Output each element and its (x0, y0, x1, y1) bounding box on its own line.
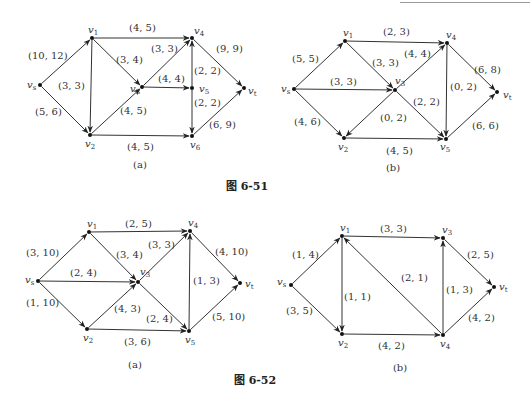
node-label-v2: v2 (85, 138, 95, 151)
edge-label-v5-v4: (2, 2) (194, 65, 221, 76)
edge-label-vs-v2: (1, 10) (26, 297, 59, 308)
edge-v5-vt (447, 94, 494, 138)
node-vs (38, 83, 42, 87)
figure-caption: 图 6-52 (234, 374, 276, 387)
node-vs (292, 87, 296, 91)
node-v2 (88, 133, 92, 137)
edge-label-v2-v5: (4, 5) (386, 145, 413, 156)
edge-label-v2-v5: (3, 6) (124, 336, 151, 347)
edge-label-v1-v3: (3, 4) (116, 249, 143, 260)
edge-vs-v1 (41, 40, 89, 84)
node-v1 (340, 234, 344, 238)
node-label-v5: v5 (185, 334, 195, 347)
edge-label-vs-v2: (5, 6) (35, 106, 62, 117)
edge-label-vs-v1: (1, 4) (292, 249, 319, 260)
edge-label-v3-v4: (3, 3) (148, 239, 175, 250)
node-label-v1: v1 (343, 27, 353, 40)
panel-a: (10, 12)(5, 6)(3, 3)(4, 5)(3, 4)(4, 5)(4… (27, 22, 257, 170)
edge-label-vs-v3: (2, 4) (70, 267, 97, 278)
edge-label-v5-vt: (6, 6) (472, 120, 499, 131)
node-label-vt: vt (503, 89, 512, 102)
node-vs (289, 283, 293, 287)
edge-label-v1-v2: (1, 1) (344, 291, 371, 302)
edge-v1-v3 (344, 236, 440, 238)
edge-label-v4-v1: (2, 1) (401, 272, 428, 283)
node-v3 (393, 88, 397, 92)
node-label-vt: vt (245, 278, 254, 291)
node-label-v4: v4 (440, 338, 451, 351)
edge-v1-v4 (347, 41, 444, 43)
figure-6-51: (10, 12)(5, 6)(3, 3)(4, 5)(3, 4)(4, 5)(4… (27, 22, 512, 193)
node-v2 (342, 136, 346, 140)
figure-6-52: (3, 10)(2, 4)(1, 10)(2, 5)(3, 4)(4, 3)(3… (25, 217, 508, 387)
edge-label-v1-v3: (3, 4) (116, 54, 143, 65)
panel-b: (1, 4)(3, 5)(3, 3)(1, 1)(2, 1)(4, 2)(1, … (277, 222, 508, 373)
node-label-vs: vs (281, 83, 291, 96)
node-label-v2: v2 (83, 332, 93, 345)
edge-label-v5-v6: (2, 2) (194, 97, 221, 108)
edge-v2-v5 (89, 329, 186, 331)
edge-label-v4-vt: (4, 10) (215, 246, 248, 257)
edge-v3-vt (444, 239, 491, 285)
panel-caption: (a) (128, 359, 142, 370)
edge-label-vs-v3: (3, 3) (330, 76, 357, 87)
edge-label-v4-vt: (6, 8) (474, 64, 501, 75)
edge-label-v5-vt: (5, 10) (212, 311, 245, 322)
edge-label-vs-v2: (3, 5) (286, 305, 313, 316)
node-label-v4: v4 (194, 25, 205, 38)
node-label-vs: vs (27, 79, 37, 92)
edge-v1-v4 (91, 231, 187, 232)
edge-label-v4-vt: (4, 2) (468, 312, 495, 323)
node-label-v1: v1 (87, 218, 97, 231)
node-vt (495, 90, 499, 94)
node-label-vt: vt (499, 281, 508, 294)
node-vt (238, 281, 242, 285)
edge-label-v2-v3: (4, 3) (114, 303, 141, 314)
edge-v2-v4 (344, 334, 440, 335)
node-label-v1: v1 (340, 222, 350, 235)
node-v3 (136, 280, 140, 284)
edge-label-vs-v1: (3, 10) (26, 247, 59, 258)
edge-label-v3-v4: (4, 4) (404, 48, 431, 59)
node-v3 (441, 236, 445, 240)
edge-label-v3-v2: (0, 2) (380, 112, 407, 123)
edge-v3-v5 (144, 87, 189, 88)
edge-vs-v3 (296, 89, 392, 90)
node-label-vt: vt (248, 85, 257, 98)
node-label-v2: v2 (338, 141, 348, 154)
node-v4 (190, 36, 194, 40)
edge-label-v1-v4: (4, 5) (129, 22, 156, 33)
node-v5 (190, 86, 194, 90)
node-v1 (343, 39, 347, 43)
node-label-v3: v3 (130, 83, 140, 96)
node-label-v6: v6 (190, 139, 201, 152)
node-vt (492, 285, 496, 289)
node-label-v2: v2 (338, 337, 348, 350)
panel-caption: (b) (386, 162, 400, 173)
edge-label-v3-v5: (2, 4) (146, 313, 173, 324)
panel-caption: (a) (133, 159, 147, 170)
edge-label-v3-vt: (2, 5) (467, 249, 494, 260)
edge-v5-vt (190, 285, 237, 330)
node-label-v3: v3 (442, 224, 452, 237)
node-label-vs: vs (25, 274, 35, 287)
edge-vs-v3 (40, 281, 135, 282)
edge-label-v1-v3: (3, 3) (372, 57, 399, 68)
figure-caption: 图 6-51 (226, 180, 268, 193)
edge-vs-v1 (292, 238, 339, 284)
node-label-v5: v5 (440, 141, 450, 154)
edge-label-v1-v4: (2, 3) (383, 26, 410, 37)
node-v2 (340, 332, 344, 336)
panel-b: (5, 5)(3, 3)(4, 6)(2, 3)(3, 3)(4, 4)(0, … (281, 26, 512, 173)
edge-v4-v5 (446, 45, 447, 136)
node-v4 (188, 229, 192, 233)
edge-label-v2-v6: (4, 5) (127, 141, 154, 152)
edge-label-v3-v5: (2, 2) (413, 96, 440, 107)
node-label-v3: v3 (140, 266, 150, 279)
node-v4 (445, 41, 449, 45)
node-v2 (85, 327, 89, 331)
panel-caption: (b) (393, 362, 407, 373)
edge-label-vs-v2: (4, 6) (294, 116, 321, 127)
node-label-v4: v4 (446, 29, 457, 42)
edge-label-v2-v3: (4, 5) (120, 105, 147, 116)
